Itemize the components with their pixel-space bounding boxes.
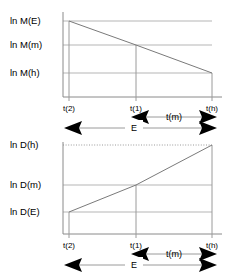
x-tick-label-th: t(h)	[206, 104, 218, 113]
log-diameter-panel: ln D(h) ln D(m) ln D(E) t(2) t(1) t(h) t…	[0, 134, 230, 280]
x-tick-label-t1: t(1)	[130, 104, 142, 113]
log-mass-panel: ln M(E) ln M(m) ln M(h) t(2) t(1) t(h) t…	[0, 0, 230, 136]
y-tick-label-ln-m-h: ln M(h)	[10, 67, 40, 78]
y-tick-label-ln-d-m: ln D(m)	[10, 179, 41, 190]
figure-root: ln M(E) ln M(m) ln M(h) t(2) t(1) t(h) t…	[0, 0, 230, 280]
x-tick-label-t1: t(1)	[130, 241, 142, 250]
data-line-ln-m	[69, 21, 212, 73]
span-label-tm: t(m)	[166, 112, 182, 122]
y-tick-label-ln-m-m: ln M(m)	[10, 39, 42, 50]
data-line-ln-d	[69, 145, 212, 212]
span-label-E: E	[131, 260, 137, 270]
y-tick-label-ln-d-h: ln D(h)	[10, 139, 39, 150]
y-tick-label-ln-d-E: ln D(E)	[10, 206, 40, 217]
x-tick-label-t2: t(2)	[63, 104, 75, 113]
x-tick-label-th: t(h)	[206, 241, 218, 250]
y-tick-label-ln-m-E: ln M(E)	[10, 15, 41, 26]
span-label-E: E	[131, 123, 137, 133]
x-tick-label-t2: t(2)	[63, 241, 75, 250]
span-label-tm: t(m)	[166, 249, 182, 259]
